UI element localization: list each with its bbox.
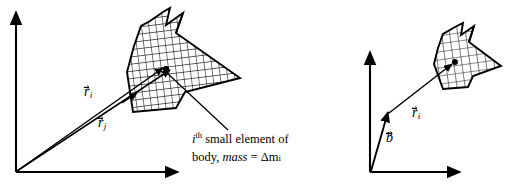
mass-element-dot-left: [163, 66, 169, 72]
annotation-mass-subscript: i: [279, 153, 282, 163]
label-vector-r-j-left: rj: [98, 116, 106, 131]
label-subscript: j: [103, 121, 106, 131]
vector-accent-arrow-icon: [84, 84, 89, 90]
annotation-mass-word: mass: [222, 150, 247, 164]
rigid-body-outline-right: [434, 23, 501, 89]
left-panel: [16, 8, 240, 172]
vector-r-i-left: [17, 68, 163, 171]
mass-element-dot-right: [452, 59, 458, 65]
vector-accent-arrow-icon: [386, 130, 393, 136]
right-body: [434, 23, 501, 89]
left-body: [127, 8, 240, 112]
label-subscript: i: [89, 90, 92, 100]
label-vector-r-i-left: ri: [84, 85, 92, 100]
vector-r-j-left: [17, 70, 170, 171]
vector-accent-arrow-icon: [412, 105, 417, 111]
annotation-line-1: ith small element of: [192, 131, 289, 145]
annotation-body-word: body,: [192, 150, 222, 164]
rigid-body-outline-left: [127, 8, 240, 112]
annotation-line-1-text: small element of: [202, 132, 288, 146]
vector-accent-arrow-icon: [98, 115, 103, 121]
label-vector-b-right: b: [386, 131, 393, 146]
annotation-line-2: body, mass = Δmi: [192, 151, 281, 164]
right-panel: [370, 23, 501, 172]
label-vector-r-i-right: ri: [412, 106, 420, 121]
label-subscript: i: [417, 111, 420, 121]
annotation-mass-value: = Δm: [247, 150, 278, 164]
